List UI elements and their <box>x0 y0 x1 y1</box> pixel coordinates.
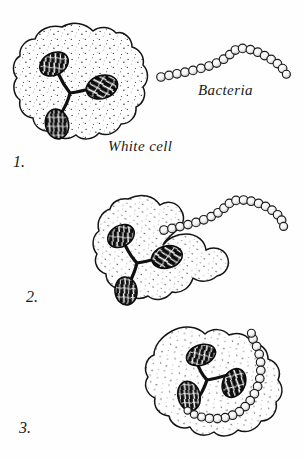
label-bacteria: Bacteria <box>198 82 253 99</box>
white-cell-1 <box>13 23 147 141</box>
label-white-cell: White cell <box>108 138 172 155</box>
step-number-2: 2. <box>26 288 38 306</box>
panel-3 <box>146 327 282 436</box>
white-cell-2 <box>93 195 228 306</box>
cell-membrane-1 <box>13 23 147 139</box>
step-number-3: 3. <box>19 419 31 437</box>
step-number-1: 1. <box>13 153 25 171</box>
phagocytosis-figure <box>0 0 304 460</box>
bacteria-chain-1 <box>157 44 291 81</box>
panel-2 <box>93 195 288 306</box>
